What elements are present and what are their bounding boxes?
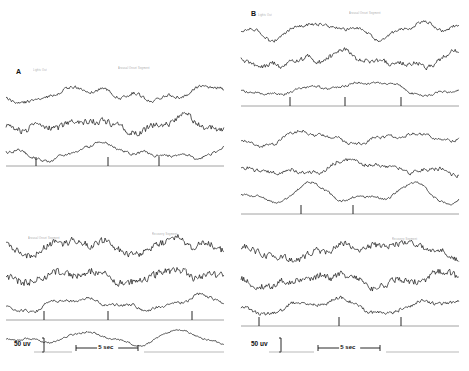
panel-b: BLights OutArousal Onset SegmentRecovery…: [0, 0, 469, 371]
time-calibration-label: 5 sec: [340, 344, 355, 350]
amplitude-calibration-bar: [279, 338, 281, 352]
eeg-figure: ALights OutArousal Onset SegmentArousal …: [0, 0, 469, 371]
calibration-bars: 50 uv5 sec: [0, 0, 469, 371]
amplitude-calibration-label: 50 uv: [251, 340, 268, 347]
